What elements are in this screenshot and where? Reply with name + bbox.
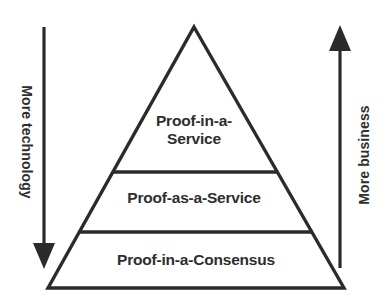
tier-label-middle: Proof-as-a-Service xyxy=(84,189,304,207)
arrow-up-icon xyxy=(329,25,351,268)
axis-label-more-business: More business xyxy=(356,105,372,204)
arrow-down-icon xyxy=(33,27,55,269)
axis-label-more-technology: More technology xyxy=(19,85,35,199)
pyramid-diagram: Proof-in-a- Service Proof-as-a-Service P… xyxy=(0,0,388,304)
pyramid-outline xyxy=(48,27,344,288)
tier-label-bottom: Proof-in-a-Consensus xyxy=(54,251,338,269)
tier-label-top: Proof-in-a- Service xyxy=(114,112,274,149)
